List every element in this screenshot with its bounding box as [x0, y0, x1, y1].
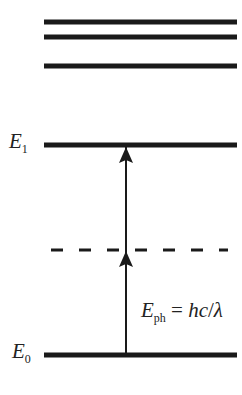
eph-sub: ph: [154, 311, 166, 325]
photon-energy-equation: Eph = hc/λ: [141, 300, 223, 324]
eph-lambda: λ: [214, 298, 223, 322]
e0-label-main: E: [12, 339, 25, 363]
eph-equals: =: [166, 298, 188, 322]
e1-label: E1: [9, 131, 28, 155]
e0-label-sub: 0: [25, 352, 31, 366]
e0-label: E0: [12, 341, 31, 365]
eph-hc: hc: [188, 298, 208, 322]
eph-main: E: [141, 298, 154, 322]
e1-label-main: E: [9, 129, 22, 153]
e1-label-sub: 1: [22, 142, 28, 156]
energy-level-diagram: [0, 0, 242, 395]
